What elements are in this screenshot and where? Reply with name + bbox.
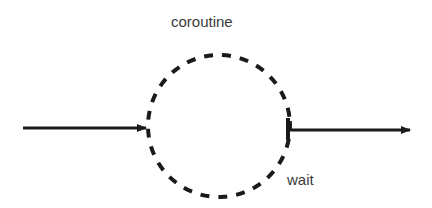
wait-label: wait (287, 172, 314, 187)
diagram-svg (0, 0, 432, 208)
coroutine-diagram: coroutine wait (0, 0, 432, 208)
coroutine-label: coroutine (171, 14, 233, 29)
coroutine-circle (143, 50, 295, 202)
